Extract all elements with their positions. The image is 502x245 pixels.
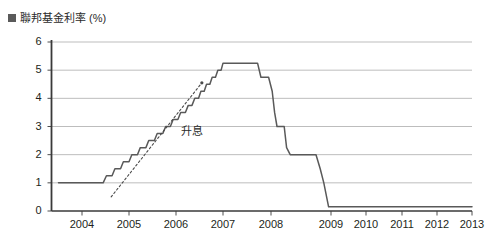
- y-axis-tick-label: 4: [22, 92, 42, 103]
- rate-hike-arrow-head: [200, 81, 203, 84]
- y-axis-tick-label: 2: [22, 149, 42, 160]
- x-axis-tick-label: 2005: [106, 219, 152, 230]
- federal-funds-rate-chart: 聯邦基金利率 (%) 0123456 200420052006200720082…: [0, 0, 502, 245]
- rate-hike-arrow: [111, 83, 202, 197]
- x-axis-tick-label: 2006: [153, 219, 199, 230]
- plot-area: [0, 0, 502, 245]
- y-axis-tick-label: 0: [22, 205, 42, 216]
- y-axis-tick-label: 5: [22, 64, 42, 75]
- y-axis-tick-label: 1: [22, 177, 42, 188]
- x-axis-tick-label: 2008: [248, 219, 294, 230]
- y-axis-tick-label: 3: [22, 121, 42, 132]
- rate-hike-annotation-label: 升息: [181, 125, 203, 137]
- x-axis-tick-label: 2013: [449, 219, 495, 230]
- x-axis-tick-label: 2004: [59, 219, 105, 230]
- y-axis-tick-label: 6: [22, 36, 42, 47]
- x-axis-tick-label: 2007: [200, 219, 246, 230]
- gridlines: [52, 42, 473, 183]
- x-axis-ticks: [48, 42, 473, 216]
